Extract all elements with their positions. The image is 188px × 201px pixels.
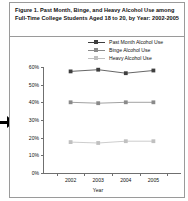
data-point-marker — [124, 100, 128, 104]
x-axis-title: Year — [10, 187, 186, 193]
series-line — [71, 141, 154, 143]
x-tick-label: 2005 — [139, 177, 167, 183]
data-point-marker — [96, 141, 100, 145]
series-2 — [69, 100, 156, 105]
data-point-marker — [96, 68, 100, 72]
series-3 — [69, 139, 156, 145]
x-tick-label: 2003 — [84, 177, 112, 183]
data-point-marker — [124, 139, 128, 143]
data-point-marker — [124, 71, 128, 75]
data-point-marker — [152, 139, 156, 143]
x-tick-label: 2002 — [57, 177, 85, 183]
series-line — [71, 102, 154, 103]
data-point-marker — [69, 100, 73, 104]
series-line — [71, 70, 154, 74]
series-1 — [69, 68, 156, 75]
data-point-marker — [69, 140, 73, 144]
data-point-marker — [96, 101, 100, 105]
figure-screenshot: Figure 1. Past Month, Binge, and Heavy A… — [0, 0, 188, 201]
data-point-marker — [152, 69, 156, 73]
series-layer — [10, 3, 186, 199]
plot-area: 60%50%40%30%20%10%0% 2002200320042005 Ye… — [10, 3, 186, 199]
data-point-marker — [69, 70, 73, 74]
x-tick-label: 2004 — [112, 177, 140, 183]
figure-frame: Figure 1. Past Month, Binge, and Heavy A… — [9, 2, 185, 198]
data-point-marker — [152, 100, 156, 104]
